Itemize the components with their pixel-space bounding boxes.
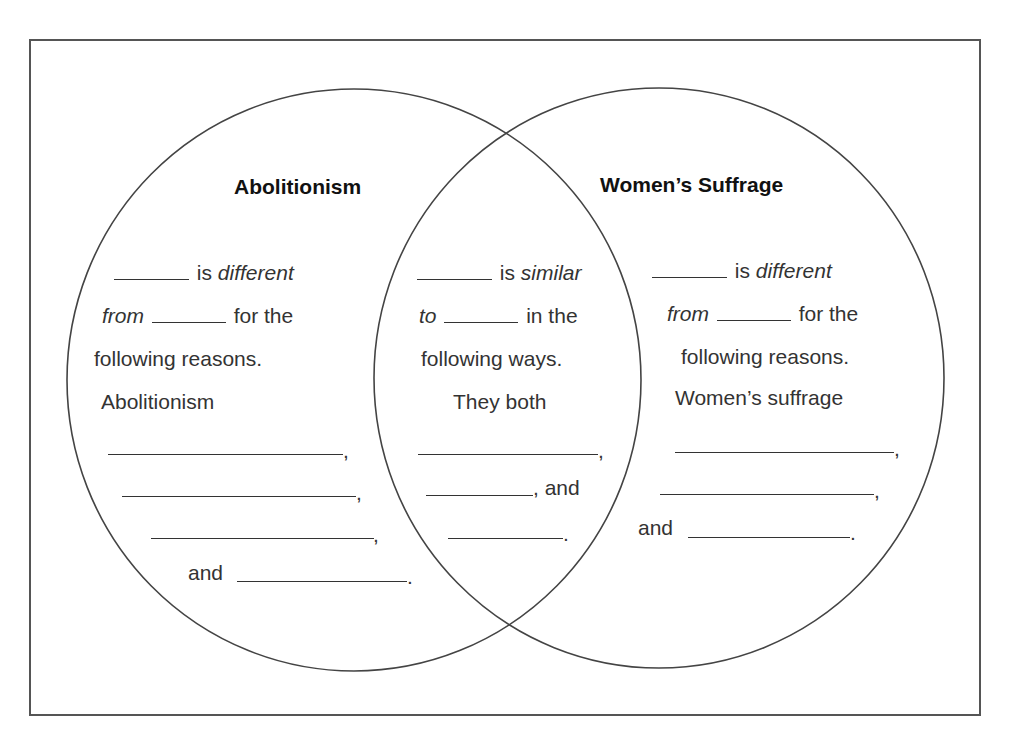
blank-field[interactable] xyxy=(152,306,226,323)
left-circle-title: Abolitionism xyxy=(234,176,361,197)
blank-field[interactable] xyxy=(114,263,189,280)
blank-field[interactable] xyxy=(660,494,874,495)
right-line-4: Women’s suffrage xyxy=(675,387,843,408)
left-line-2: from for the xyxy=(102,305,293,326)
blank-field[interactable] xyxy=(151,538,374,539)
right-line-3: following reasons. xyxy=(681,346,849,367)
overlap-line-3: following ways. xyxy=(421,348,562,369)
blank-field[interactable] xyxy=(652,261,727,278)
right-final-and: and xyxy=(638,517,673,538)
overlap-line-1: is similar xyxy=(417,262,582,283)
left-final-and: and xyxy=(188,562,223,583)
left-line-4: Abolitionism xyxy=(101,391,214,412)
blank-field[interactable] xyxy=(237,581,407,582)
overlap-line-4: They both xyxy=(453,391,546,412)
blank-field[interactable] xyxy=(444,306,518,323)
right-line-1: is different xyxy=(652,260,832,281)
overlap-and: , and xyxy=(533,477,580,498)
left-line-1: is different xyxy=(114,262,294,283)
overlap-line-2: to in the xyxy=(419,305,578,326)
blank-field[interactable] xyxy=(717,304,791,321)
right-line-2: from for the xyxy=(667,303,858,324)
blank-field[interactable] xyxy=(122,496,356,497)
right-circle-title: Women’s Suffrage xyxy=(600,174,783,195)
venn-diagram xyxy=(0,0,1012,749)
blank-field[interactable] xyxy=(108,454,343,455)
blank-field[interactable] xyxy=(675,452,894,453)
blank-field[interactable] xyxy=(426,495,533,496)
left-line-3: following reasons. xyxy=(94,348,262,369)
blank-field[interactable] xyxy=(448,538,563,539)
blank-field[interactable] xyxy=(418,454,598,455)
blank-field[interactable] xyxy=(688,537,850,538)
blank-field[interactable] xyxy=(417,263,492,280)
